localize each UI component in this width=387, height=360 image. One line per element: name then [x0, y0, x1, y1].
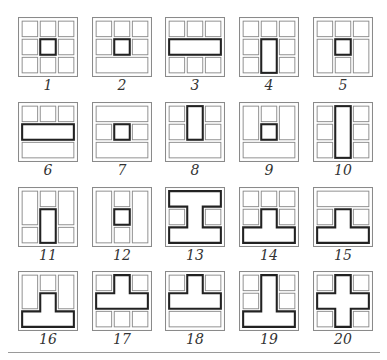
cell — [243, 57, 259, 73]
cell — [169, 311, 221, 327]
outer-frame — [240, 272, 299, 331]
figure-label: 10 — [313, 162, 373, 178]
highlighted-shape — [317, 209, 369, 243]
figure-label: 12 — [92, 247, 152, 263]
figure-label: 3 — [165, 77, 225, 93]
figure-diagram — [313, 271, 373, 331]
figure-10: 10 — [313, 102, 373, 176]
cell — [243, 21, 259, 37]
cell — [279, 293, 295, 309]
highlighted-cell — [187, 106, 203, 140]
outer-frame — [240, 103, 299, 162]
figure-diagram — [313, 187, 373, 247]
cell — [317, 311, 333, 327]
cell — [22, 191, 38, 225]
outer-frame — [93, 272, 152, 331]
cell — [205, 275, 221, 291]
cell — [96, 311, 112, 327]
highlighted-cell — [114, 209, 130, 225]
figure-label: 1 — [18, 77, 78, 93]
figure-2: 2 — [92, 17, 152, 91]
cell — [353, 124, 369, 140]
figure-13: 13 — [165, 187, 225, 261]
figure-diagram — [92, 187, 152, 247]
cell — [353, 209, 369, 225]
cell — [169, 142, 221, 158]
outer-frame — [314, 272, 373, 331]
cell — [114, 227, 130, 243]
cell — [40, 191, 56, 207]
highlighted-cell — [335, 39, 351, 55]
cell — [58, 191, 74, 225]
figure-diagram — [18, 187, 78, 247]
cell — [96, 21, 112, 37]
cell — [114, 21, 130, 37]
figure-diagram — [165, 102, 225, 162]
cell — [132, 191, 148, 243]
cell — [317, 124, 333, 140]
outer-frame — [166, 272, 225, 331]
cell — [317, 275, 333, 291]
figure-diagram — [313, 102, 373, 162]
cell — [187, 21, 203, 37]
cell — [114, 191, 130, 207]
cell — [96, 39, 112, 55]
figure-14: 14 — [239, 187, 299, 261]
figure-label: 16 — [18, 331, 78, 347]
figure-17: 17 — [92, 271, 152, 345]
cell — [353, 142, 369, 158]
highlighted-shape — [22, 293, 74, 327]
cell — [353, 21, 369, 37]
cell — [317, 209, 333, 225]
figure-6: 6 — [18, 102, 78, 176]
figure-label: 4 — [239, 77, 299, 93]
cell — [243, 275, 259, 291]
cell — [353, 311, 369, 327]
cell — [22, 227, 38, 243]
figure-5: 5 — [313, 17, 373, 91]
highlighted-cell — [261, 124, 277, 140]
figure-diagram — [92, 102, 152, 162]
outer-frame — [166, 18, 225, 77]
figure-diagram — [18, 102, 78, 162]
cell — [279, 209, 295, 225]
cell — [317, 142, 333, 158]
figure-diagram — [165, 17, 225, 77]
cell — [22, 57, 38, 73]
highlighted-shape — [96, 275, 148, 309]
outer-frame — [19, 272, 78, 331]
outer-frame — [93, 188, 152, 247]
cell — [279, 39, 295, 55]
cell — [96, 106, 148, 122]
figure-19: 19 — [239, 271, 299, 345]
outer-frame — [166, 188, 225, 247]
cell — [169, 21, 185, 37]
cell — [317, 106, 333, 122]
figure-3: 3 — [165, 17, 225, 91]
outer-frame — [314, 18, 373, 77]
cell — [317, 21, 333, 37]
highlighted-cell — [114, 124, 130, 140]
cell — [132, 275, 148, 291]
highlighted-cell — [22, 124, 74, 140]
outer-frame — [93, 103, 152, 162]
cell — [243, 39, 259, 55]
cell — [40, 275, 56, 291]
figure-diagram — [313, 17, 373, 77]
cell — [114, 311, 130, 327]
highlighted-shape — [169, 191, 221, 243]
figure-7: 7 — [92, 102, 152, 176]
highlighted-cell — [261, 39, 277, 73]
cell — [261, 21, 277, 37]
figure-11: 11 — [18, 187, 78, 261]
cell — [58, 39, 74, 55]
highlighted-cell — [40, 209, 56, 243]
figure-diagram — [18, 271, 78, 331]
figure-label: 7 — [92, 162, 152, 178]
figure-diagram — [165, 271, 225, 331]
cell — [353, 106, 369, 122]
outer-frame — [19, 18, 78, 77]
figure-diagram — [239, 187, 299, 247]
figure-label: 19 — [239, 331, 299, 347]
cell — [96, 57, 148, 73]
